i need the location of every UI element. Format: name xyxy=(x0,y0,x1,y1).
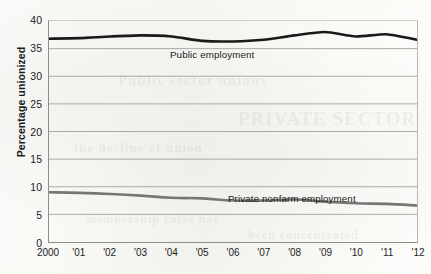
x-tick-2001: '01 xyxy=(72,247,85,258)
x-tick-2008: '08 xyxy=(288,247,301,258)
x-tick-2010: '10 xyxy=(350,247,363,258)
x-tick-2009: '09 xyxy=(319,247,332,258)
x-tick-2005: '05 xyxy=(196,247,209,258)
y-tick-10: 10 xyxy=(14,181,42,193)
y-tick-40: 40 xyxy=(14,14,42,26)
x-tick-2002: '02 xyxy=(103,247,116,258)
y-tick-5: 5 xyxy=(14,209,42,221)
private-nonfarm-label: Private nonfarm employment xyxy=(228,193,356,204)
x-tick-2011: '11 xyxy=(381,247,393,258)
x-tick-2007: '07 xyxy=(257,247,270,258)
series-line-public-employment xyxy=(49,32,417,41)
y-tick-30: 30 xyxy=(14,70,42,82)
x-tick-2004: '04 xyxy=(165,247,178,258)
x-tick-2012: '12 xyxy=(411,247,424,258)
y-tick-25: 25 xyxy=(14,98,42,110)
union-membership-chart: Public sector unions PRIVATE SECTOR the … xyxy=(0,0,431,274)
x-tick-2006: '06 xyxy=(226,247,239,258)
x-tick-2003: '03 xyxy=(134,247,147,258)
y-tick-35: 35 xyxy=(14,42,42,54)
y-tick-15: 15 xyxy=(14,153,42,165)
public-employment-label: Public employment xyxy=(170,49,254,60)
y-axis-tick-labels: 0510152025303540 xyxy=(0,0,48,274)
x-tick-2000: 2000 xyxy=(37,247,59,258)
y-tick-20: 20 xyxy=(14,126,42,138)
